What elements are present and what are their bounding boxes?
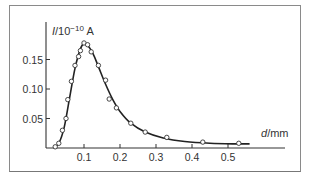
y-tick-label: 0.10: [23, 83, 44, 95]
y-tick-label: 0.05: [23, 113, 44, 125]
data-point-marker: [64, 116, 68, 120]
data-point-marker: [165, 135, 169, 139]
data-point-marker: [78, 48, 82, 52]
data-point-marker: [69, 79, 73, 83]
chart-plot: 0.10.20.30.40.50.050.100.15 I/10−10 A d/…: [0, 0, 310, 177]
data-point-marker: [114, 106, 118, 110]
y-axis-label: I/10−10 A: [52, 24, 94, 37]
data-point-marker: [53, 145, 57, 149]
x-tick-label: 0.2: [113, 151, 128, 163]
fit-curve: [53, 43, 249, 148]
data-point-marker: [96, 63, 100, 67]
data-point-marker: [103, 78, 107, 82]
x-tick-label: 0.3: [149, 151, 164, 163]
data-point-marker: [107, 97, 111, 101]
data-point-marker: [89, 50, 93, 54]
data-point-marker: [66, 97, 70, 101]
data-point-marker: [73, 63, 77, 67]
data-point-marker: [129, 121, 133, 125]
y-tick-label: 0.15: [23, 54, 44, 66]
data-point-marker: [60, 128, 64, 132]
data-point-marker: [57, 141, 61, 145]
data-point-marker: [201, 140, 205, 144]
data-point-marker: [85, 43, 89, 47]
axes: [46, 22, 285, 148]
x-tick-label: 0.4: [185, 151, 200, 163]
data-point-marker: [143, 130, 147, 134]
x-tick-label: 0.1: [77, 151, 92, 163]
data-points: [53, 41, 241, 149]
x-axis-label: d/mm: [261, 127, 289, 139]
data-point-marker: [76, 54, 80, 58]
data-point-marker: [237, 141, 241, 145]
x-tick-label: 0.5: [221, 151, 236, 163]
